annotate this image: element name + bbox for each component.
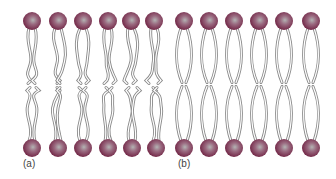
phospholipid-head (99, 139, 117, 157)
panel-b-straight-bilayer (175, 12, 320, 157)
phospholipid-head (99, 12, 117, 30)
phospholipid-head (275, 12, 293, 30)
phospholipid-head (302, 139, 320, 157)
phospholipid-head (123, 139, 141, 157)
phospholipid-head (23, 139, 41, 157)
panel-b-label: (b) (178, 158, 190, 169)
phospholipid-head (225, 139, 243, 157)
phospholipid-head (122, 12, 140, 30)
phospholipid-head (250, 12, 268, 30)
phospholipid-head (200, 12, 218, 30)
phospholipid-head (147, 139, 165, 157)
phospholipid-head (145, 12, 163, 30)
phospholipid-head (200, 139, 218, 157)
phospholipid-head (49, 12, 67, 30)
phospholipid-head (49, 139, 67, 157)
phospholipid-head (225, 12, 243, 30)
phospholipid-head (74, 12, 92, 30)
lipid-bilayer-figure (0, 0, 336, 179)
phospholipid-head (275, 139, 293, 157)
phospholipid-head (23, 12, 41, 30)
phospholipid-head (250, 139, 268, 157)
phospholipid-head (302, 12, 320, 30)
panel-a-label: (a) (23, 158, 35, 169)
phospholipid-head (74, 139, 92, 157)
phospholipid-head (175, 12, 193, 30)
phospholipid-head (175, 139, 193, 157)
panel-a-kinked-bilayer (23, 12, 165, 157)
